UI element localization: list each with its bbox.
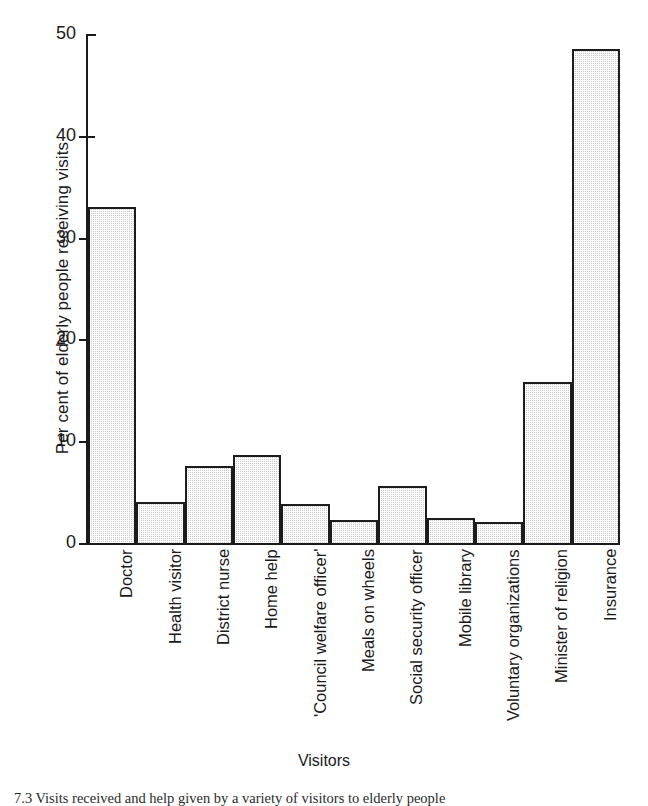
bar-series: [88, 34, 620, 543]
bar: [233, 455, 281, 543]
y-tick-label: 50: [24, 24, 76, 43]
bar: [572, 49, 620, 543]
y-tick-label: 20: [24, 329, 76, 348]
x-tick-label-text: Meals on wheels: [360, 549, 376, 672]
x-axis-line: [86, 543, 620, 545]
bar: [475, 522, 523, 543]
x-tick-label-text: Doctor: [118, 549, 134, 598]
x-tick-label-text: 'Council welfare officer': [312, 549, 328, 717]
bar: [281, 504, 329, 543]
bar: [136, 502, 184, 543]
x-tick-label-text: District nurse: [215, 549, 231, 645]
bar: [378, 486, 426, 543]
bar: [523, 382, 571, 543]
bar-chart-figure: Per cent of elderly people receiving vis…: [0, 0, 648, 806]
y-tick-mark: [79, 543, 95, 545]
x-tick-label-text: Home help: [263, 549, 279, 629]
plot-area: 0 10 20 30 40 50: [88, 34, 620, 543]
x-tick-labels: DoctorHealth visitorDistrict nurseHome h…: [88, 549, 620, 749]
x-tick-label-text: Minister of religion: [553, 549, 569, 683]
figure-caption: 7.3 Visits received and help given by a …: [14, 789, 634, 806]
x-tick-label-text: Health visitor: [167, 549, 183, 644]
bar: [330, 520, 378, 543]
x-tick-label-text: Insurance: [602, 549, 618, 621]
y-tick-label: 0: [24, 533, 76, 552]
x-tick-label-text: Voluntary organizations: [505, 549, 521, 721]
y-tick-label: 30: [24, 228, 76, 247]
y-tick-label: 10: [24, 431, 76, 450]
bar: [427, 518, 475, 543]
x-tick-label-text: Social security officer: [408, 549, 424, 705]
bar: [185, 466, 233, 543]
x-tick-label-text: Mobile library: [457, 549, 473, 647]
bar: [88, 207, 136, 543]
x-axis-title: Visitors: [0, 752, 648, 770]
y-tick-label: 40: [24, 126, 76, 145]
